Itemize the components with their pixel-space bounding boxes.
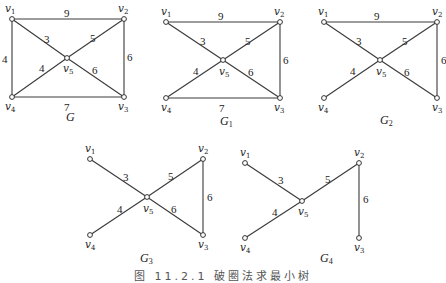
vertex-v4 bbox=[243, 236, 248, 241]
edge-v1-v5 bbox=[166, 22, 223, 60]
vertex-v3 bbox=[201, 233, 206, 238]
vertex-label: v4 bbox=[318, 101, 329, 115]
graph-g: 93564467v1v2v3v4v5G bbox=[2, 2, 133, 124]
vertex-v3 bbox=[357, 236, 362, 241]
vertex-label: v1 bbox=[5, 2, 15, 16]
edge-weight-label: 9 bbox=[374, 10, 380, 22]
graph-label: G2 bbox=[380, 113, 393, 128]
edge-weight-label: 5 bbox=[325, 173, 331, 185]
edge-weight-label: 5 bbox=[168, 170, 174, 182]
vertex-label: v1 bbox=[240, 146, 250, 160]
vertex-label: v5 bbox=[143, 202, 153, 216]
edge-v1-v5 bbox=[12, 19, 67, 58]
vertex-v5 bbox=[378, 58, 383, 63]
edge-weight-label: 6 bbox=[248, 66, 254, 78]
vertex-v5 bbox=[300, 199, 305, 204]
edge-v2-v5 bbox=[147, 159, 203, 197]
vertex-label: v4 bbox=[85, 238, 96, 252]
vertex-v1 bbox=[10, 17, 15, 22]
vertex-v5 bbox=[145, 195, 150, 200]
edge-weight-label: 3 bbox=[200, 35, 206, 47]
vertex-v3 bbox=[278, 96, 283, 101]
vertex-label: v2 bbox=[432, 5, 442, 19]
vertex-label: v3 bbox=[354, 241, 364, 255]
vertex-label: v1 bbox=[161, 5, 171, 19]
vertex-v3 bbox=[122, 95, 127, 100]
vertex-label: v1 bbox=[85, 142, 95, 156]
vertex-label: v4 bbox=[161, 101, 172, 115]
edge-weight-label: 4 bbox=[39, 62, 45, 74]
edge-weight-label: 5 bbox=[90, 32, 96, 44]
vertex-label: v3 bbox=[432, 101, 442, 115]
edge-v2-v5 bbox=[223, 22, 280, 60]
edge-v1-v5 bbox=[245, 163, 302, 201]
vertex-label: v4 bbox=[240, 241, 251, 255]
edge-v1-v5 bbox=[324, 22, 380, 60]
vertex-label: v5 bbox=[298, 205, 308, 219]
edge-weight-label: 9 bbox=[64, 7, 70, 19]
edge-weight-label: 7 bbox=[219, 102, 225, 114]
vertex-v4 bbox=[164, 96, 169, 101]
vertex-v1 bbox=[243, 161, 248, 166]
vertex-v1 bbox=[322, 20, 327, 25]
graph-label: G1 bbox=[220, 114, 233, 129]
edge-weight-label: 4 bbox=[2, 53, 8, 65]
edge-weight-label: 3 bbox=[356, 35, 362, 47]
vertex-v3 bbox=[435, 96, 440, 101]
edge-weight-label: 4 bbox=[272, 206, 278, 218]
graph-g4: 3564v1v2v3v4v5G4 bbox=[240, 146, 369, 266]
vertex-label: v5 bbox=[63, 62, 73, 76]
edge-weight-label: 4 bbox=[193, 65, 199, 77]
edge-weight-label: 6 bbox=[127, 51, 133, 63]
vertex-v2 bbox=[278, 20, 283, 25]
edge-weight-label: 4 bbox=[117, 203, 123, 215]
edge-weight-label: 6 bbox=[171, 203, 177, 215]
graph-g3: 35646v1v2v3v4v5G3 bbox=[85, 142, 213, 266]
vertex-v4 bbox=[88, 233, 93, 238]
edge-v2-v5 bbox=[380, 22, 437, 60]
vertex-v4 bbox=[322, 96, 327, 101]
vertex-label: v2 bbox=[118, 2, 128, 16]
vertex-v2 bbox=[201, 157, 206, 162]
edge-weight-label: 6 bbox=[207, 191, 213, 203]
edge-v2-v5 bbox=[302, 163, 359, 201]
graph-g2: 935646v1v2v3v4v5G2 bbox=[318, 5, 446, 128]
graph-label: G bbox=[66, 110, 75, 124]
vertex-label: v3 bbox=[198, 238, 208, 252]
vertex-v4 bbox=[10, 95, 15, 100]
edge-weight-label: 6 bbox=[404, 66, 410, 78]
edge-weight-label: 3 bbox=[123, 171, 129, 183]
edge-weight-label: 6 bbox=[363, 193, 369, 205]
vertex-v2 bbox=[122, 17, 127, 22]
vertex-v2 bbox=[435, 20, 440, 25]
vertex-label: v1 bbox=[318, 5, 328, 19]
graph-label: G4 bbox=[320, 251, 333, 266]
edge-v2-v5 bbox=[67, 19, 124, 58]
edge-weight-label: 3 bbox=[44, 33, 50, 45]
edge-weight-label: 5 bbox=[245, 35, 251, 47]
edge-weight-label: 3 bbox=[278, 174, 284, 186]
vertex-v1 bbox=[88, 157, 93, 162]
vertex-label: v2 bbox=[354, 146, 364, 160]
edge-weight-label: 6 bbox=[441, 54, 446, 66]
vertex-v5 bbox=[221, 58, 226, 63]
vertex-label: v5 bbox=[219, 65, 229, 79]
edge-weight-label: 9 bbox=[218, 10, 224, 22]
edge-v1-v5 bbox=[90, 159, 147, 197]
edge-weight-label: 6 bbox=[92, 64, 98, 76]
vertex-label: v2 bbox=[198, 142, 208, 156]
edge-weight-label: 6 bbox=[283, 54, 289, 66]
edge-weight-label: 4 bbox=[350, 65, 356, 77]
figure-caption: 图 11.2.1 破圈法求最小树 bbox=[0, 267, 446, 283]
vertex-v5 bbox=[65, 56, 70, 61]
vertex-label: v3 bbox=[274, 101, 284, 115]
vertex-label: v4 bbox=[5, 100, 16, 114]
vertex-label: v2 bbox=[274, 5, 284, 19]
vertex-label: v5 bbox=[376, 65, 386, 79]
vertex-v1 bbox=[164, 20, 169, 25]
graph-label: G3 bbox=[140, 251, 153, 266]
vertex-v2 bbox=[357, 161, 362, 166]
edge-weight-label: 5 bbox=[402, 35, 408, 47]
vertex-label: v3 bbox=[118, 100, 128, 114]
